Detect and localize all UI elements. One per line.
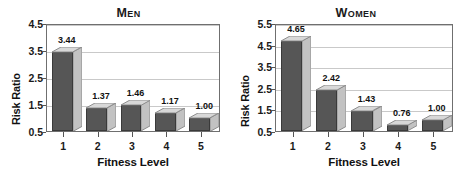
bar-value-label: 1.00 [422, 103, 452, 113]
y-axis-label-men: Risk Ratio [10, 73, 22, 125]
bar-value-label: 1.37 [86, 91, 116, 101]
y-axis-ticks-women: 0.51.52.53.54.55.5 [253, 24, 275, 132]
bar-top-face [86, 103, 116, 109]
x-tick-mark [132, 132, 133, 137]
bar-front-face [351, 111, 372, 131]
x-tick-label: 1 [290, 140, 296, 152]
x-tick-mark [398, 132, 399, 137]
bar-series-men: 3.441.371.461.171.00 [47, 25, 219, 131]
x-tick-mark [433, 132, 434, 137]
chart-panel-men: Men Risk Ratio 0.51.52.53.54.5 3.441.371… [0, 0, 231, 178]
bar-front-face [281, 41, 302, 131]
y-tick-label: 2.5 [28, 72, 43, 84]
x-tick-label: 3 [360, 140, 366, 152]
bar-3d [155, 113, 176, 131]
y-tick-label: 2.5 [257, 83, 272, 95]
x-tick-mark [98, 132, 99, 137]
bar-value-label: 4.65 [281, 24, 311, 34]
x-tick-label: 2 [325, 140, 331, 152]
bar-value-label: 1.43 [351, 94, 381, 104]
bar-item: 1.37 [86, 25, 116, 131]
bar-front-face [422, 120, 443, 131]
bar-top-face [387, 120, 417, 126]
x-tick-mark [293, 132, 294, 137]
bar-item: 1.17 [155, 25, 185, 131]
bar-top-face [281, 36, 311, 42]
bar-value-label: 0.76 [387, 108, 417, 118]
x-axis-label-men: Fitness Level [46, 156, 220, 168]
y-tick-label: 5.5 [257, 18, 272, 30]
bar-side-face [302, 36, 311, 131]
plot-area-wrapper-men: 0.51.52.53.54.5 3.441.371.461.171.00 123… [24, 24, 220, 132]
y-tick-label: 3.5 [28, 45, 43, 57]
x-tick-mark [166, 132, 167, 137]
bar-3d [387, 125, 408, 131]
x-tick-label: 5 [198, 140, 204, 152]
bar-side-face [73, 47, 82, 131]
bar-item: 1.46 [121, 25, 151, 131]
y-tick-label: 1.5 [28, 99, 43, 111]
bar-item: 1.43 [351, 25, 381, 131]
bar-3d [351, 111, 372, 131]
y-axis-label-women: Risk Ratio [239, 75, 251, 127]
x-tick-label: 1 [60, 140, 66, 152]
bar-top-face [52, 47, 82, 53]
bar-front-face [86, 108, 107, 131]
bar-3d [52, 52, 73, 131]
bar-3d [281, 41, 302, 131]
plot-area-women: 4.652.421.430.761.00 [275, 24, 453, 132]
bar-value-label: 3.44 [52, 35, 82, 45]
y-axis-ticks-men: 0.51.52.53.54.5 [24, 24, 46, 132]
x-tick-label: 3 [129, 140, 135, 152]
bar-side-face [337, 85, 346, 131]
x-tick-mark [363, 132, 364, 137]
x-axis-ticks-men: 12345 [46, 132, 220, 154]
bar-3d [121, 105, 142, 131]
x-axis-ticks-women: 12345 [275, 132, 453, 154]
x-tick-mark [63, 132, 64, 137]
bar-value-label: 1.17 [155, 96, 185, 106]
y-tick-label: 0.5 [257, 126, 272, 138]
x-tick-label: 4 [163, 140, 169, 152]
y-tick-label: 4.5 [28, 18, 43, 30]
x-tick-mark [328, 132, 329, 137]
bar-top-face [351, 106, 381, 112]
y-tick-label: 0.5 [28, 126, 43, 138]
bar-top-face [422, 115, 452, 121]
bar-item: 1.00 [189, 25, 219, 131]
bar-value-label: 1.46 [121, 88, 151, 98]
y-tick-label: 4.5 [257, 40, 272, 52]
bar-top-face [155, 108, 185, 114]
bar-top-face [121, 100, 151, 106]
dual-bar-chart-figure: Men Risk Ratio 0.51.52.53.54.5 3.441.371… [0, 0, 463, 178]
bar-item: 3.44 [52, 25, 82, 131]
bar-front-face [316, 90, 337, 131]
bar-top-face [189, 113, 219, 119]
bar-item: 0.76 [387, 25, 417, 131]
x-tick-label: 5 [430, 140, 436, 152]
x-tick-label: 4 [395, 140, 401, 152]
bar-front-face [121, 105, 142, 131]
bar-3d [422, 120, 443, 131]
bar-value-label: 1.00 [189, 101, 219, 111]
x-axis-label-women: Fitness Level [275, 156, 453, 168]
bar-3d [86, 108, 107, 131]
y-tick-label: 1.5 [257, 104, 272, 116]
chart-panel-women: Women Risk Ratio 0.51.52.53.54.55.5 4.65… [231, 0, 463, 178]
x-tick-mark [201, 132, 202, 137]
y-tick-label: 3.5 [257, 61, 272, 73]
x-tick-label: 2 [95, 140, 101, 152]
bar-value-label: 2.42 [316, 73, 346, 83]
plot-area-wrapper-women: 0.51.52.53.54.55.5 4.652.421.430.761.00 … [253, 24, 453, 132]
bar-top-face [316, 85, 346, 91]
bar-item: 1.00 [422, 25, 452, 131]
bar-item: 2.42 [316, 25, 346, 131]
bar-3d [189, 118, 210, 132]
bar-3d [316, 90, 337, 131]
bar-item: 4.65 [281, 25, 311, 131]
plot-area-men: 3.441.371.461.171.00 [46, 24, 220, 132]
bar-series-women: 4.652.421.430.761.00 [276, 25, 452, 131]
bar-front-face [155, 113, 176, 131]
bar-front-face [189, 118, 210, 132]
bar-front-face [52, 52, 73, 131]
